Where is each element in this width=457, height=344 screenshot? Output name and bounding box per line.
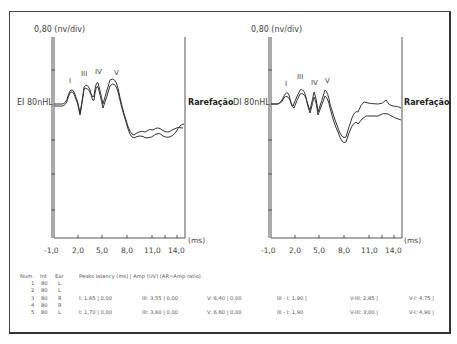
row-peak-i: I: 1,65 | 0,00 (79, 295, 112, 301)
header-num: Num (20, 273, 32, 279)
header-peaks: Peaks latency (ms) | Amp (UV) (AR=Amp ra… (79, 273, 201, 279)
row-peak-v: V: 6,40 | 0,00 (207, 295, 242, 301)
right-xtick-1: 2,0 (289, 246, 301, 255)
right-chart: 0,80 (nv/div) DI 80nHL Rarefação (ms) I … (0, 0, 457, 265)
row-v-iii: V-III: 3,00 | (350, 309, 378, 315)
row-num: 3 (31, 295, 34, 301)
row-num: 1 (31, 280, 34, 286)
row-int: 80 (41, 302, 48, 308)
right-xtick-5: 14,0 (385, 246, 402, 255)
row-ear: L (58, 280, 61, 286)
header-int: Int (40, 273, 47, 279)
row-ear: L (58, 309, 61, 315)
right-xtick-2: 5,0 (313, 246, 325, 255)
row-iii-i: III - I: 1,90 | (277, 295, 307, 301)
row-v-i: V-I: 4,75 | (409, 295, 434, 301)
header-ear: Ear (55, 273, 64, 279)
row-int: 80 (41, 280, 48, 286)
row-v-i: V-I: 4,90 | (409, 309, 434, 315)
row-peak-iii: III: 3,60 | 0,00 (142, 309, 178, 315)
row-ear: R (58, 295, 62, 301)
row-int: 80 (41, 309, 48, 315)
right-xtick-0: -1,0 (261, 246, 276, 255)
row-peak-i: I: 1,70 | 0,00 (79, 309, 112, 315)
row-int: 80 (41, 295, 48, 301)
row-num: 2 (31, 287, 34, 293)
row-num: 5 (31, 309, 34, 315)
right-xtick-4: 11,0 (361, 246, 378, 255)
row-int: 80 (41, 287, 48, 293)
row-peak-iii: III: 3,55 | 0,00 (142, 295, 178, 301)
right-plot-svg (0, 0, 457, 265)
row-ear: L (58, 287, 61, 293)
right-xtick-3: 8,0 (338, 246, 350, 255)
row-iii-i: III - I: 1,90 (277, 309, 303, 315)
row-peak-v: V: 6,60 | 0,00 (207, 309, 242, 315)
row-v-iii: V-III: 2,85 | (350, 295, 378, 301)
row-ear: R (58, 302, 62, 308)
row-num: 4 (31, 302, 34, 308)
